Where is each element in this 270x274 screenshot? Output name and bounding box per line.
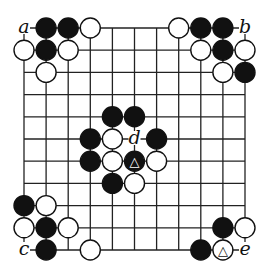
black-stone [80, 151, 100, 171]
black-stone [36, 18, 56, 38]
white-stone [191, 40, 211, 60]
white-stone [36, 62, 56, 82]
svg-text:b: b [239, 15, 251, 37]
svg-text:a: a [18, 15, 29, 37]
triangle-mark-icon: △ [218, 243, 228, 258]
white-stone [125, 173, 145, 193]
black-stone [102, 173, 122, 193]
svg-text:e: e [239, 237, 250, 259]
black-stone [80, 129, 100, 149]
point-label-a: a [18, 15, 30, 37]
triangle-mark-icon: △ [130, 154, 140, 169]
black-stone [213, 18, 233, 38]
white-stone [102, 129, 122, 149]
black-stone [147, 129, 167, 149]
black-stone [102, 107, 122, 127]
black-stone [125, 107, 145, 127]
white-stone [14, 40, 34, 60]
white-stone [147, 151, 167, 171]
point-label-c: c [18, 237, 30, 259]
go-board: △△ abcde [0, 0, 270, 274]
black-stone [235, 62, 255, 82]
point-label-e: e [239, 237, 251, 259]
white-stone [58, 218, 78, 238]
black-stone [58, 18, 78, 38]
white-stone [213, 62, 233, 82]
white-stone [36, 196, 56, 216]
white-stone [80, 18, 100, 38]
point-label-d: d [128, 126, 140, 148]
white-stone [58, 40, 78, 60]
black-stone [191, 18, 211, 38]
svg-text:d: d [128, 126, 140, 148]
svg-text:c: c [19, 237, 30, 259]
white-stone: △ [213, 240, 233, 260]
black-stone [36, 40, 56, 60]
white-stone [169, 18, 189, 38]
white-stone [235, 218, 255, 238]
black-stone: △ [125, 151, 145, 171]
black-stone [213, 40, 233, 60]
black-stone [213, 218, 233, 238]
point-label-b: b [239, 15, 251, 37]
white-stone [80, 240, 100, 260]
white-stone [14, 218, 34, 238]
black-stone [14, 196, 34, 216]
white-stone [102, 151, 122, 171]
black-stone [36, 240, 56, 260]
black-stone [191, 240, 211, 260]
black-stone [36, 218, 56, 238]
white-stone [235, 40, 255, 60]
